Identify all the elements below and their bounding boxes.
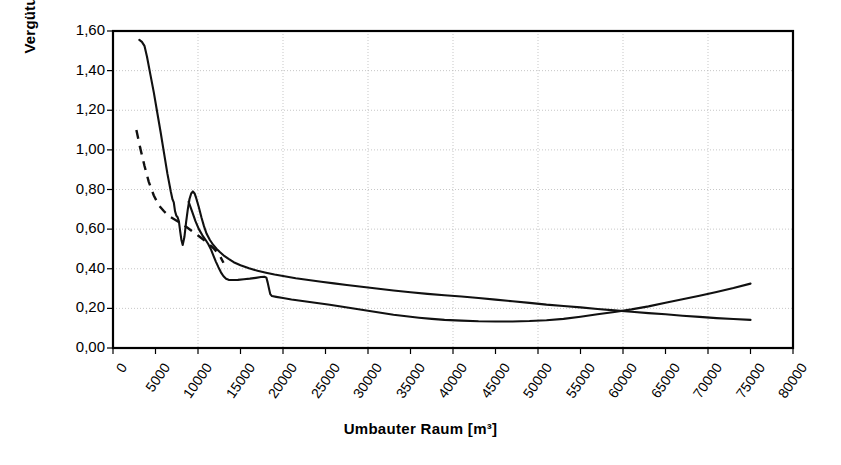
series-upper-solid-curve <box>139 40 750 320</box>
y-tick-label: 1,20 <box>45 100 105 117</box>
tickmarks <box>107 31 793 354</box>
plot-canvas <box>0 0 841 465</box>
y-tick-label: 0,80 <box>45 180 105 197</box>
gridlines <box>113 31 793 348</box>
y-tick-label: 1,60 <box>45 21 105 38</box>
data-series <box>136 40 750 322</box>
y-tick-label: 0,20 <box>45 298 105 315</box>
y-tick-label: 0,60 <box>45 219 105 236</box>
chart-figure: Vergütung [Prozent] Umbauter Raum [m³] 0… <box>0 0 841 465</box>
series-lower-solid-curve <box>189 202 751 322</box>
y-axis-title: Vergütung [Prozent] <box>10 0 50 100</box>
x-axis-title: Umbauter Raum [m³] <box>0 420 841 437</box>
y-tick-label: 1,00 <box>45 140 105 157</box>
y-tick-label: 0,40 <box>45 259 105 276</box>
y-tick-label: 1,40 <box>45 61 105 78</box>
y-tick-label: 0,00 <box>45 338 105 355</box>
